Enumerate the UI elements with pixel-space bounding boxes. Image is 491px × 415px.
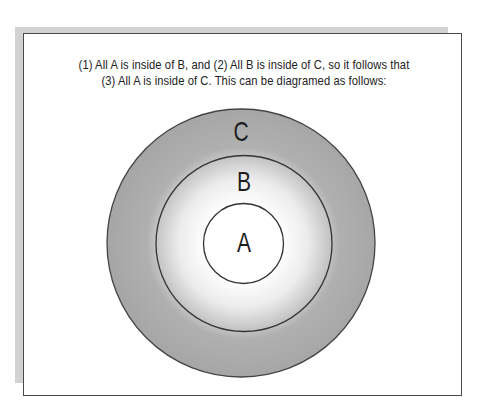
label-b: B bbox=[237, 166, 251, 196]
euler-diagram: C B A bbox=[0, 0, 491, 415]
label-c: C bbox=[233, 116, 248, 146]
label-a: A bbox=[237, 227, 252, 257]
